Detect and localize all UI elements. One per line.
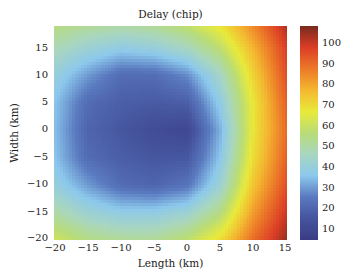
x-tick: 0 (184, 243, 190, 253)
y-tick: −15 (27, 207, 48, 217)
y-tick: −5 (33, 152, 48, 162)
x-axis-label: Length (km) (54, 257, 287, 269)
x-tick: 10 (247, 243, 260, 253)
colorbar (300, 26, 318, 240)
y-tick: 0 (42, 124, 48, 134)
x-tick: 5 (217, 243, 223, 253)
chart-title: Delay (chip) (54, 8, 287, 20)
y-axis-label: Width (km) (8, 103, 20, 163)
colorbar-tick: 50 (322, 141, 335, 151)
colorbar-tick: 80 (322, 79, 335, 89)
y-tick: −20 (27, 233, 48, 243)
colorbar-tick: 70 (322, 100, 335, 110)
colorbar-tick: 90 (322, 59, 335, 69)
y-tick: 15 (35, 43, 48, 53)
colorbar-tick: 60 (322, 121, 335, 131)
y-tick: −10 (27, 179, 48, 189)
x-tick: −5 (147, 243, 162, 253)
heatmap-plot-area (54, 26, 287, 240)
colorbar-tick: 30 (322, 183, 335, 193)
x-tick: 15 (279, 243, 292, 253)
x-tick: −10 (110, 243, 131, 253)
y-tick: 5 (42, 97, 48, 107)
x-tick: −15 (77, 243, 98, 253)
colorbar-tick: 40 (322, 162, 335, 172)
x-tick: −20 (44, 243, 65, 253)
colorbar-tick: 20 (322, 203, 335, 213)
colorbar-tick: 10 (322, 224, 335, 234)
y-tick: 10 (35, 70, 48, 80)
colorbar-tick: 100 (322, 38, 341, 48)
